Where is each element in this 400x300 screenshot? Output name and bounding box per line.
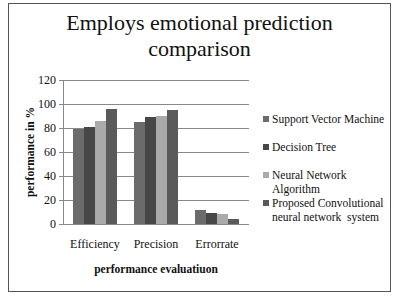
chart-title-line-2: comparison [8, 36, 391, 62]
legend-label: Proposed Convolutionalneural network sys… [272, 196, 384, 224]
bar-error-rate-series-1 [206, 213, 217, 224]
chart-title: Employs emotional prediction comparison [8, 10, 391, 62]
bar-efficiency-series-0 [73, 129, 84, 224]
legend-item: Support Vector Machine [263, 112, 384, 126]
y-tick-label: 40 [30, 170, 56, 182]
bar-efficiency-series-2 [95, 121, 106, 224]
legend-label: Neural Network Algorithm [272, 168, 388, 196]
y-tick-label: 80 [30, 122, 56, 134]
legend-item: Decision Tree [263, 140, 336, 154]
bar-precision-series-0 [134, 122, 145, 224]
bar-error-rate-series-3 [228, 219, 239, 224]
x-category-label: Errorrate [186, 237, 248, 252]
x-axis-label: performance evaluatiuon [63, 263, 249, 275]
bar-efficiency-series-1 [84, 127, 95, 224]
legend-item: Proposed Convolutionalneural network sys… [263, 196, 384, 224]
legend-swatch-icon [263, 172, 269, 178]
gridline [63, 104, 249, 105]
chart-title-line-1: Employs emotional prediction [8, 10, 391, 36]
gridline [63, 80, 249, 81]
x-category-label: Precision [125, 237, 187, 252]
legend-swatch-icon [263, 144, 269, 150]
plot-area [63, 80, 249, 224]
bar-error-rate-series-2 [217, 214, 228, 224]
legend-item: Neural Network Algorithm [263, 168, 388, 196]
legend-label: Support Vector Machine [272, 112, 384, 126]
gridline [63, 224, 249, 225]
y-tick-label: 60 [30, 146, 56, 158]
y-tick-label: 120 [30, 74, 56, 86]
legend-swatch-icon [263, 116, 269, 122]
bar-precision-series-2 [156, 116, 167, 224]
x-category-label: Efficiency [64, 237, 126, 252]
legend-swatch-icon [263, 200, 269, 206]
y-tick-label: 0 [30, 218, 56, 230]
bar-precision-series-3 [167, 110, 178, 224]
legend-label: Decision Tree [272, 140, 336, 154]
bar-efficiency-series-3 [106, 109, 117, 224]
bar-precision-series-1 [145, 117, 156, 224]
y-tick-label: 20 [30, 194, 56, 206]
bar-error-rate-series-0 [195, 210, 206, 224]
y-axis-line [63, 80, 64, 224]
y-tick-label: 100 [30, 98, 56, 110]
